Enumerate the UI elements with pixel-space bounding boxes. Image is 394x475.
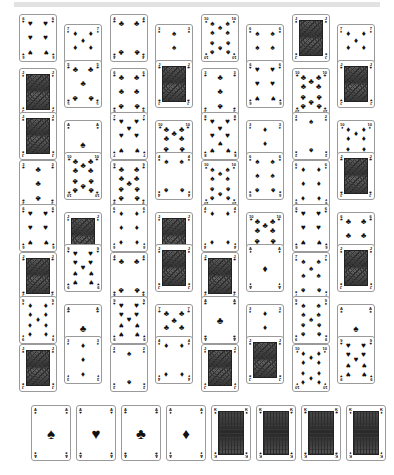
playing-card[interactable]: J♠J♠J♠J♠	[246, 336, 284, 384]
card-corner-index: 9♥	[370, 374, 373, 381]
playing-card[interactable]: 2♠2♠2♠2♠♠♠	[110, 344, 148, 392]
card-corner-index: 8♥	[204, 150, 207, 157]
card-pip: ♥	[301, 238, 306, 246]
card-corner-index: J♣	[158, 63, 161, 70]
card-pip: ♣	[361, 232, 366, 240]
card-corner-index: 6♦	[143, 207, 145, 214]
playing-card[interactable]: A♦A♦A♦A♦♦	[246, 244, 284, 292]
playing-card[interactable]: J♦J♦J♦J♦	[201, 344, 239, 392]
card-corner-index: 9♥	[340, 339, 343, 346]
playing-card[interactable]: 9♠9♠9♠9♠♠♠♠♠♠♠♠♠♠	[292, 296, 330, 344]
card-pip-field: ♣♣♣	[26, 167, 50, 201]
playing-card[interactable]: 9♥9♥9♥9♥♥♥♥♥♥♥♥♥♥	[337, 336, 375, 384]
card-pip: ♥	[88, 278, 93, 286]
playing-card[interactable]: 5♣5♣5♣5♣♣♣♣♣♣	[64, 60, 102, 108]
card-suit-glyph: ♦	[249, 310, 251, 314]
playing-card[interactable]: 6♥6♥6♥6♥♥♥♥♥♥♥	[246, 60, 284, 108]
card-pip: ♦	[301, 180, 305, 188]
playing-card[interactable]: 3♣3♣3♣3♣♣♣♣	[201, 68, 239, 116]
card-corner-index: 6♥	[22, 17, 25, 24]
card-pip: ♥	[270, 80, 275, 88]
playing-card[interactable]: 6♦6♦6♦6♦♦♦♦♦♦♦	[292, 160, 330, 208]
card-suit-glyph: ♥	[279, 66, 282, 70]
playing-card[interactable]: 9♥9♥9♥9♥♥♥♥♥♥♥♥♥♥	[64, 244, 102, 292]
card-pip: ♠	[255, 172, 259, 180]
card-pip: ♣	[134, 194, 139, 202]
playing-card[interactable]: J♠J♠J♠J♠	[19, 344, 57, 392]
playing-card[interactable]: 10♦10♦10♦10♦♦♦♦♦♦♦♦♦♦♦	[292, 344, 330, 392]
playing-card[interactable]: 2♠2♠2♠2♠♠♠	[292, 112, 330, 160]
playing-card[interactable]: A♠A♠A♠A♠♠	[31, 405, 71, 461]
playing-card[interactable]: A♣A♣A♣A♣♣	[201, 296, 239, 344]
playing-card[interactable]: 3♦3♦3♦3♦♦♦♦	[64, 336, 102, 384]
playing-card[interactable]: 10♠10♠10♠10♠♠♠♠♠♠♠♠♠♠♠	[201, 160, 239, 208]
card-pip: ♥	[354, 356, 359, 364]
card-pip-field: ♦♦♦	[71, 343, 95, 377]
playing-card[interactable]: 9♦9♦9♦9♦♦♦♦♦♦♦♦♦♦	[19, 296, 57, 344]
card-suit-glyph: ♠	[279, 158, 281, 162]
playing-card[interactable]: 10♣10♣10♣10♣♣♣♣♣♣♣♣♣♣♣	[64, 152, 102, 200]
card-pip: ♣	[80, 162, 85, 170]
ace-center-pip: ♣	[122, 406, 160, 460]
playing-card[interactable]: 6♥6♥6♥6♥♥♥♥♥♥♥	[19, 14, 57, 62]
card-suit-glyph: ♣	[96, 66, 99, 70]
playing-card[interactable]: J♠J♠J♠J♠	[19, 112, 57, 160]
card-pip-field: ♣♣♣♣♣	[71, 67, 95, 101]
card-suit-glyph: ♣	[113, 258, 116, 262]
card-suit-glyph: ♠	[295, 118, 297, 122]
card-suit-glyph: ♠	[249, 374, 251, 378]
card-suit-glyph: ♠	[205, 198, 207, 202]
card-corner-index: J♠	[325, 52, 327, 59]
card-pip: ♣	[80, 182, 85, 190]
playing-card[interactable]: 3♣3♣3♣3♣♣♣♣	[19, 160, 57, 208]
playing-card[interactable]: 4♣4♣4♣4♣♣♣♣♣	[110, 14, 148, 62]
playing-card[interactable]: K♠K♠K♠K♠	[211, 405, 251, 461]
playing-card[interactable]: 10♣10♣10♣10♣♣♣♣♣♣♣♣♣♣♣	[292, 68, 330, 116]
card-pip: ♦	[119, 224, 123, 232]
playing-card[interactable]: 4♣4♣4♣4♣♣♣♣♣	[110, 252, 148, 300]
card-corner-index: 3♦	[279, 307, 281, 314]
playing-card[interactable]: 9♣9♣9♣9♣♣♣♣♣♣♣♣♣♣	[110, 160, 148, 208]
card-corner-index: 6♥	[52, 52, 55, 59]
playing-card[interactable]: J♥J♥J♥J♥	[337, 60, 375, 108]
playing-card[interactable]: 7♠7♠7♠7♠♠♠♠♠♠♠♠	[292, 252, 330, 300]
playing-card[interactable]: 10♠10♠10♠10♠♠♠♠♠♠♠♠♠♠♠	[201, 14, 239, 62]
card-suit-glyph: ♣	[233, 290, 236, 294]
playing-card[interactable]: 9♥9♥9♥9♥♥♥♥♥♥♥♥♥♥	[110, 296, 148, 344]
playing-card[interactable]: J♠J♠J♠J♠	[292, 14, 330, 62]
playing-card[interactable]: 4♦4♦4♦4♦♦♦♦♦	[201, 204, 239, 252]
card-pip: ♠	[317, 330, 321, 338]
playing-card[interactable]: A♦A♦A♦A♦♦	[166, 405, 206, 461]
card-suit-glyph: ♠	[205, 166, 207, 170]
playing-card[interactable]: 8♥8♥8♥8♥♥♥♥♥♥♥♥♥	[201, 112, 239, 160]
playing-card[interactable]: J♠J♠J♠J♠	[155, 244, 193, 292]
playing-card[interactable]: K♥K♥K♥K♥	[256, 405, 296, 461]
playing-card[interactable]: 6♦6♦6♦6♦♦♦♦♦♦♦	[110, 204, 148, 252]
card-corner-index: J♠	[22, 115, 24, 122]
playing-card[interactable]: 6♥6♥6♥6♥♥♥♥♥♥♥	[292, 204, 330, 252]
playing-card[interactable]: A♥A♥A♥A♥♥	[76, 405, 116, 461]
card-pip-field: ♥♥♥♥♥♥	[26, 21, 50, 55]
card-pip: ♥	[255, 80, 260, 88]
playing-card[interactable]: J♣J♣J♣J♣	[155, 60, 193, 108]
card-corner-index: 6♥	[52, 17, 55, 24]
playing-card[interactable]: J♣J♣J♣J♣	[337, 152, 375, 200]
playing-card[interactable]: K♦K♦K♦K♦	[346, 405, 386, 461]
playing-card[interactable]: 6♠6♠6♠6♠♠♠♠♠♠♠	[246, 152, 284, 200]
playing-card[interactable]: J♣J♣J♣J♣	[19, 252, 57, 300]
playing-card[interactable]: 6♣6♣6♣6♣♣♣♣♣♣♣	[110, 68, 148, 116]
playing-card[interactable]: J♦J♦J♦J♦	[19, 68, 57, 116]
playing-card[interactable]: K♣K♣K♣K♣	[301, 405, 341, 461]
card-suit-glyph: ♦	[143, 210, 145, 214]
card-pip: ♣	[270, 227, 275, 235]
playing-card[interactable]: 4♠4♠4♠4♠♠♠♠♠	[155, 152, 193, 200]
playing-card[interactable]: A♣A♣A♣A♣♣	[121, 405, 161, 461]
playing-card[interactable]: J♠J♠J♠J♠	[337, 244, 375, 292]
card-corner-index: 2♠	[325, 150, 327, 157]
playing-card[interactable]: 6♥6♥6♥6♥♥♥♥♥♥♥	[19, 204, 57, 252]
card-pip: ♥	[43, 210, 48, 218]
playing-card[interactable]: 7♥7♥7♥7♥♥♥♥♥♥♥♥	[110, 112, 148, 160]
playing-card[interactable]: 4♦4♦4♦4♦♦♦♦♦	[155, 336, 193, 384]
card-suit-glyph: ♣	[187, 66, 190, 70]
playing-card[interactable]: J♣J♣J♣J♣	[201, 252, 239, 300]
